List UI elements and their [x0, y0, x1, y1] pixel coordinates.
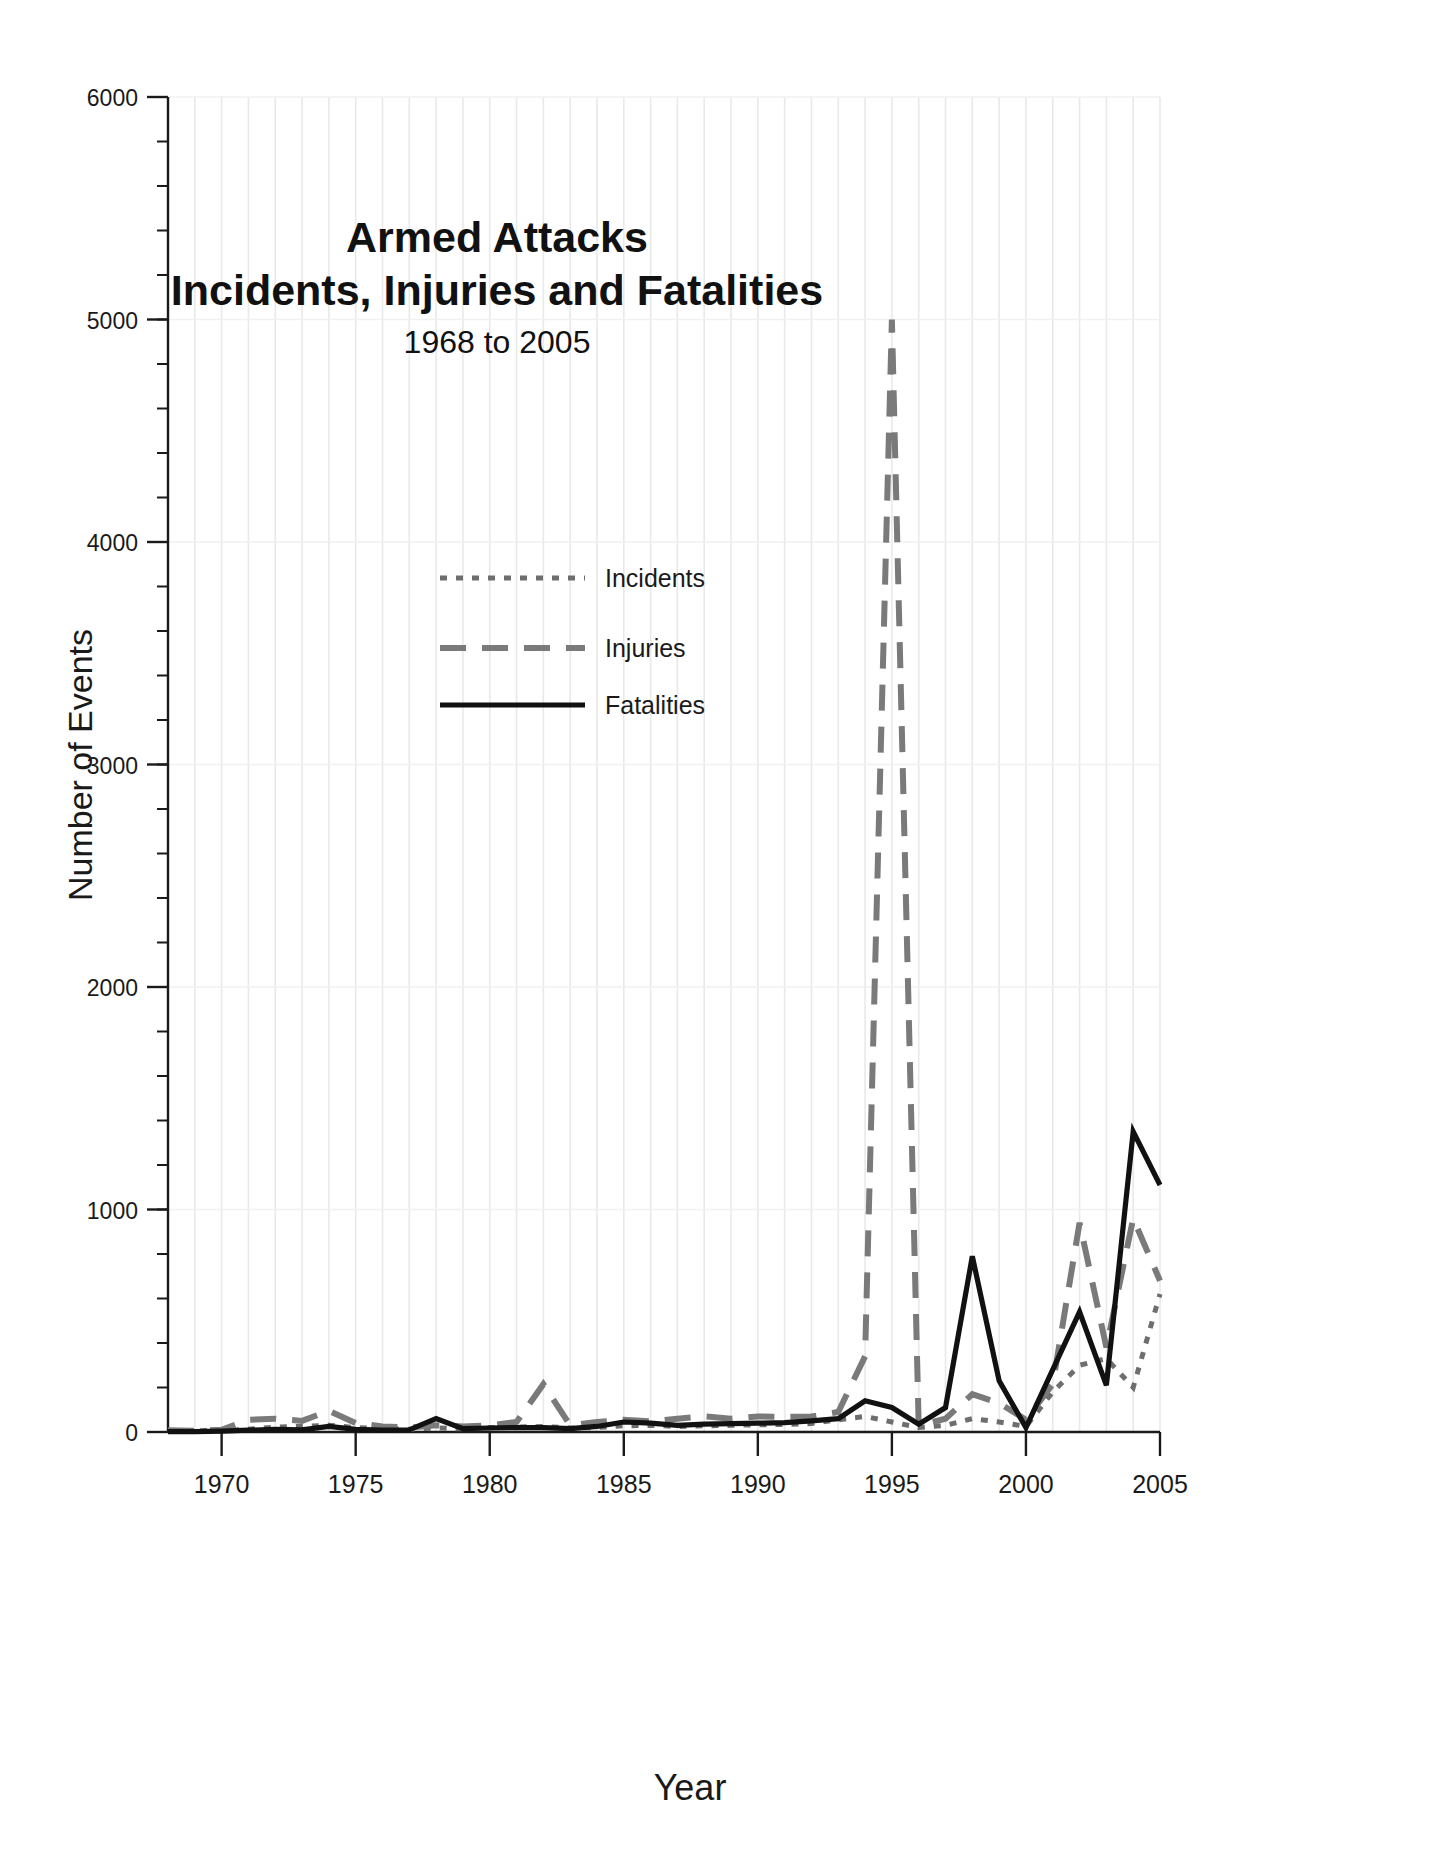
y-axis-tick-label: 2000: [87, 975, 138, 1001]
chart-subtitle: 1968 to 2005: [404, 324, 591, 360]
y-axis-major-ticks: [147, 97, 168, 1432]
y-axis-tick-label: 4000: [87, 530, 138, 556]
series-line-fatalities: [168, 1132, 1160, 1432]
y-axis-tick-label: 0: [125, 1420, 138, 1446]
chart-title-line1: Armed Attacks: [346, 213, 648, 261]
x-axis-tick-labels: 19701975198019851990199520002005: [194, 1470, 1188, 1498]
chart-canvas: 0100020003000400050006000 19701975198019…: [0, 0, 1448, 1866]
x-axis-tick-label: 1975: [328, 1470, 384, 1498]
y-axis-tick-label: 5000: [87, 308, 138, 334]
y-axis-tick-label: 6000: [87, 85, 138, 111]
x-axis-tick-label: 1990: [730, 1470, 786, 1498]
legend-label-incidents[interactable]: Incidents: [605, 564, 705, 592]
legend-label-injuries[interactable]: Injuries: [605, 634, 686, 662]
x-axis-title: Year: [654, 1767, 727, 1808]
chart-legend: IncidentsInjuriesFatalities: [440, 564, 705, 719]
y-axis-tick-label: 1000: [87, 1198, 138, 1224]
data-series-layer: [168, 320, 1160, 1432]
series-line-injuries: [168, 320, 1160, 1431]
line-chart: 0100020003000400050006000 19701975198019…: [0, 0, 1448, 1866]
chart-title-line2: Incidents, Injuries and Fatalities: [171, 266, 823, 314]
x-axis-tick-label: 2005: [1132, 1470, 1188, 1498]
legend-label-fatalities[interactable]: Fatalities: [605, 691, 705, 719]
x-axis-major-ticks: [222, 1432, 1160, 1456]
x-axis-tick-label: 1995: [864, 1470, 920, 1498]
x-axis-tick-label: 1970: [194, 1470, 250, 1498]
y-axis-title: Number of Events: [61, 629, 99, 901]
x-axis-tick-label: 1985: [596, 1470, 652, 1498]
x-axis-tick-label: 2000: [998, 1470, 1054, 1498]
x-axis-tick-label: 1980: [462, 1470, 518, 1498]
